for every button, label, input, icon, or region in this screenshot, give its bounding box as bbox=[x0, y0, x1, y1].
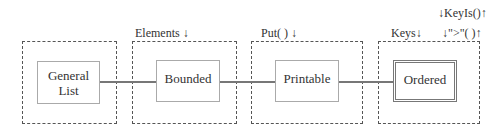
node-ordered: Ordered bbox=[393, 60, 457, 102]
node-label-line1: General bbox=[48, 68, 89, 83]
edge-general-bounded bbox=[100, 81, 156, 83]
label-keys: Keys↓ bbox=[391, 26, 422, 41]
label-elements: Elements ↓ bbox=[135, 26, 189, 41]
node-label: Ordered bbox=[404, 72, 447, 87]
node-bounded: Bounded bbox=[156, 60, 220, 102]
node-label: Bounded bbox=[165, 71, 212, 86]
label-put: Put( ) ↓ bbox=[261, 26, 297, 41]
node-label-line2: List bbox=[58, 83, 78, 98]
node-label: Printable bbox=[284, 71, 331, 86]
node-general-list: General List bbox=[37, 61, 100, 104]
edge-bounded-printable bbox=[220, 81, 275, 83]
edge-printable-ordered bbox=[339, 81, 393, 83]
node-printable: Printable bbox=[275, 60, 339, 102]
label-greater-than: ↓">"( )↑ bbox=[442, 26, 482, 41]
label-keyis: ↓KeyIs()↑ bbox=[438, 6, 487, 21]
